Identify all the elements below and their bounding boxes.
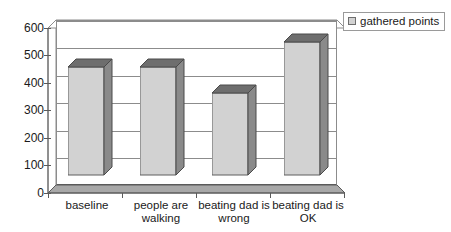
bar-baseline-shape [68,57,114,185]
x-axis-label-beating-dad-is-wrong: beating dad is wrong [194,199,274,225]
y-tick-400 [44,83,51,84]
y-tick-600 [44,28,51,29]
x-axis-label-people-are-walking: people are walking [122,199,200,225]
y-tick-200 [44,138,51,139]
x-axis-label-baseline: baseline [48,199,126,212]
y-tick-500 [44,55,51,56]
x-tick-1 [122,193,123,198]
x-tick-3 [270,193,271,198]
bar-beating-dad-is-wrong [212,93,248,185]
x-tick-0 [48,193,49,198]
x-tick-4 [344,193,345,198]
bar-chart: 600 500 400 300 200 100 0 baseline peopl… [0,0,451,232]
y-tick-100 [44,165,51,166]
y-axis-label-200: 200 [10,132,44,144]
y-axis-label-300: 300 [10,104,44,116]
legend-label-gathered-points: gathered points [360,15,439,27]
bar-beating-dad-is-ok [284,42,320,185]
y-axis-label-400: 400 [10,77,44,89]
bar-beating-dad-is-wrong-shape [212,83,258,185]
legend: gathered points [343,12,445,31]
bar-beating-dad-is-ok-shape [284,32,330,185]
y-axis-label-500: 500 [10,49,44,61]
y-axis-label-600: 600 [10,22,44,34]
y-axis: 600 500 400 300 200 100 0 [4,0,44,232]
x-axis-label-beating-dad-is-ok: beating dad is OK [268,199,348,225]
y-tick-300 [44,110,51,111]
y-axis-label-100: 100 [10,159,44,171]
y-axis-label-0: 0 [10,187,44,199]
legend-swatch-icon [348,17,356,25]
bar-baseline [68,67,104,185]
bar-people-are-walking-shape [140,57,186,185]
x-tick-2 [196,193,197,198]
gridline-600 [57,21,336,22]
bar-people-are-walking [140,67,176,185]
